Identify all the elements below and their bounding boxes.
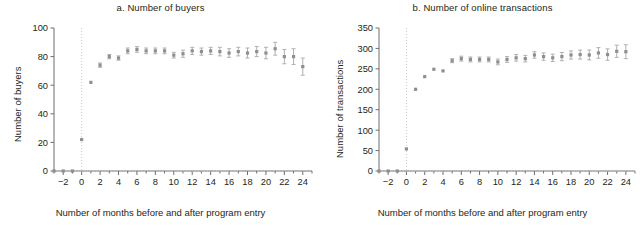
data-point-marker [441,69,444,72]
series-points [377,45,627,173]
x-tick-label: 18 [566,177,576,187]
y-tick-label: 40 [38,109,48,119]
data-point-marker [597,51,600,54]
x-tick-label: 10 [493,177,503,187]
data-point-marker [209,49,212,52]
data-point-marker [551,56,554,59]
data-point-marker [460,57,463,60]
data-point-marker [405,147,408,150]
data-point-marker [218,50,221,53]
x-tick-label: 18 [242,177,252,187]
x-tick-label: 22 [279,177,289,187]
data-point-marker [246,51,249,54]
y-tick-label: 50 [363,146,373,156]
data-point-marker [264,51,267,54]
x-tick-label: 14 [205,177,215,187]
x-tick-label: 4 [116,177,121,187]
x-tick-label: 16 [224,177,234,187]
data-point-marker [451,59,454,62]
series-points [52,42,304,172]
data-point-marker [108,55,111,58]
data-point-marker [377,169,380,172]
data-point-marker [227,51,230,54]
data-point-marker [62,169,65,172]
data-point-marker [191,49,194,52]
x-tick-label: 10 [169,177,179,187]
y-tick-label: 150 [357,105,373,115]
x-tick-label: 12 [511,177,521,187]
data-point-marker [579,53,582,56]
x-tick-label: 2 [97,177,102,187]
data-point-marker [98,64,101,67]
y-tick-label: 80 [38,52,48,62]
data-point-marker [496,60,499,63]
x-tick-label: 8 [477,177,482,187]
data-point-marker [80,138,83,141]
data-point-marker [172,54,175,57]
data-point-marker [615,50,618,53]
data-point-marker [569,53,572,56]
x-tick-label: 4 [440,177,445,187]
data-point-marker [524,57,527,60]
panel-a-number-of-buyers: a. Number of buyers Number of buyers Num… [0,0,321,227]
data-point-marker [71,169,74,172]
x-tick-label: 22 [602,177,612,187]
data-point-marker [478,58,481,61]
data-point-marker [89,81,92,84]
data-point-marker [135,48,138,51]
data-point-marker [469,58,472,61]
y-tick-label: 20 [38,138,48,148]
data-point-marker [283,55,286,58]
y-tick-label: 250 [357,64,373,74]
data-point-marker [606,53,609,56]
y-tick-label: 60 [38,81,48,91]
y-tick-label: 100 [357,126,373,136]
data-point-marker [126,49,129,52]
x-tick-label: 6 [459,177,464,187]
y-tick-label: 0 [43,166,48,176]
x-tick-label: 8 [153,177,158,187]
data-point-marker [423,75,426,78]
data-point-marker [515,56,518,59]
x-tick-label: 0 [404,177,409,187]
data-point-marker [414,88,417,91]
data-point-marker [200,50,203,53]
x-tick-label: 16 [548,177,558,187]
x-tick-label: 14 [529,177,539,187]
data-point-marker [505,58,508,61]
y-tick-label: 350 [357,23,373,33]
data-point-marker [387,169,390,172]
x-tick-label: 6 [134,177,139,187]
panel-b-plot: 050100150200250300350−202468101214161820… [322,0,643,227]
x-tick-label: 12 [187,177,197,187]
x-tick-label: −2 [58,177,69,187]
x-tick-label: 2 [422,177,427,187]
data-point-marker [292,55,295,58]
data-point-marker [255,50,258,53]
data-point-marker [274,47,277,50]
data-point-marker [301,65,304,68]
data-point-marker [154,49,157,52]
data-point-marker [237,50,240,53]
data-point-marker [588,53,591,56]
data-point-marker [560,55,563,58]
data-point-marker [487,58,490,61]
x-tick-label: 20 [584,177,594,187]
panel-b-number-of-online-transactions: b. Number of online transactions Number … [322,0,643,227]
data-point-marker [432,68,435,71]
y-tick-label: 100 [32,23,48,33]
data-point-marker [163,49,166,52]
y-tick-label: 200 [357,85,373,95]
panel-a-plot: 020406080100−2024681012141618202224 [0,0,321,227]
data-point-marker [396,169,399,172]
y-tick-label: 300 [357,44,373,54]
x-tick-label: 24 [621,177,631,187]
data-point-marker [117,56,120,59]
data-point-marker [624,50,627,53]
x-tick-label: −2 [383,177,394,187]
x-tick-label: 20 [261,177,271,187]
data-point-marker [533,53,536,56]
figure-container: a. Number of buyers Number of buyers Num… [0,0,643,227]
data-point-marker [52,169,55,172]
y-tick-label: 0 [368,166,373,176]
